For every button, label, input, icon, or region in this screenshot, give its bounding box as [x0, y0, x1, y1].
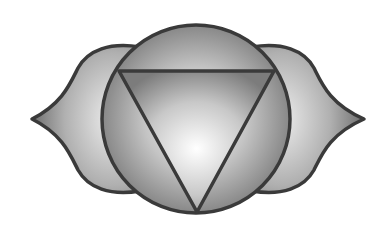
chakra-symbol: Ajna chakra symbol	[0, 0, 389, 229]
